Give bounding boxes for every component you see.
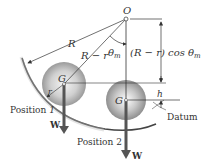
- datum-leader: [152, 100, 164, 109]
- label-h: h: [157, 89, 163, 99]
- pivot-O: [124, 17, 128, 21]
- label-O: O: [123, 5, 131, 16]
- label-datum: Datum: [167, 112, 198, 122]
- center-G2-dot: [125, 99, 128, 102]
- pendulum-diagram: O R R − r θm (R − r) cos θm G r G h Datu…: [0, 0, 210, 166]
- label-R-minus-r: R − r: [80, 50, 109, 61]
- theta-arc: [110, 36, 126, 44]
- label-position-1: Position 1: [10, 105, 55, 115]
- label-weight-2: W: [131, 151, 143, 161]
- label-position-2: Position 2: [77, 137, 122, 147]
- label-theta: θm: [108, 47, 121, 60]
- label-G1: G: [58, 73, 66, 84]
- weight-arrowhead-1: [59, 126, 69, 134]
- weight-arrowhead-2: [121, 150, 131, 159]
- label-height-expr: (R − r) cos θm: [130, 47, 201, 60]
- label-R: R: [67, 38, 76, 49]
- label-weight-1: W: [49, 120, 61, 130]
- label-G2: G: [115, 95, 123, 106]
